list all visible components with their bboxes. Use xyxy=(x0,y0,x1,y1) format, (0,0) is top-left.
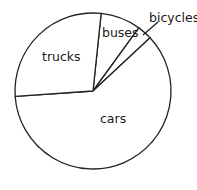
label-cars: cars xyxy=(100,111,126,126)
label-trucks: trucks xyxy=(42,49,81,64)
pie-slices xyxy=(15,13,171,169)
label-bicycles: bicycles xyxy=(149,10,197,25)
pie-chart: trucks buses bicycles cars xyxy=(0,0,197,190)
label-buses: buses xyxy=(102,25,139,40)
